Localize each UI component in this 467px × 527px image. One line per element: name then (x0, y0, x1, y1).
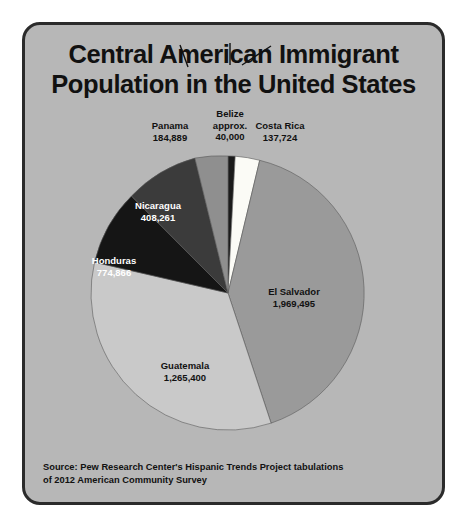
slice-label-honduras-name: Honduras (78, 255, 150, 267)
slice-label-costa-rica-name: Costa Rica (243, 120, 317, 132)
slice-label-honduras-value: 774,866 (78, 267, 150, 279)
slice-label-guatemala-value: 1,265,400 (144, 372, 226, 384)
slice-label-nicaragua-value: 408,261 (122, 212, 194, 224)
slice-label-costa-rica: Costa Rica 137,724 (243, 120, 317, 143)
slice-label-panama-name: Panama (135, 120, 205, 132)
slice-label-nicaragua: Nicaragua 408,261 (122, 200, 194, 223)
infographic-poster: Central American Immigrant Population in… (22, 22, 445, 505)
slice-label-nicaragua-name: Nicaragua (122, 200, 194, 212)
slice-label-honduras: Honduras 774,866 (78, 255, 150, 278)
leader-line-panama (180, 45, 188, 67)
slice-label-el-salvador-value: 1,969,495 (253, 298, 335, 310)
source-line-1: Source: Pew Research Center's Hispanic T… (43, 461, 433, 474)
slice-label-panama: Panama 184,889 (135, 120, 205, 143)
slice-label-panama-value: 184,889 (135, 132, 205, 144)
slice-label-belize-name: Belize (201, 108, 259, 120)
slice-label-el-salvador: El Salvador 1,969,495 (253, 286, 335, 309)
source-note: Source: Pew Research Center's Hispanic T… (43, 461, 433, 486)
leader-lines (180, 43, 271, 67)
pie-chart: Panama 184,889 Belize approx. 40,000 Cos… (25, 25, 442, 502)
slice-label-el-salvador-name: El Salvador (253, 286, 335, 298)
slice-label-guatemala-name: Guatemala (144, 360, 226, 372)
source-line-2: of 2012 American Community Survey (43, 474, 433, 487)
slice-label-costa-rica-value: 137,724 (243, 132, 317, 144)
slice-label-guatemala: Guatemala 1,265,400 (144, 360, 226, 383)
leader-line-costa-rica (242, 46, 271, 65)
